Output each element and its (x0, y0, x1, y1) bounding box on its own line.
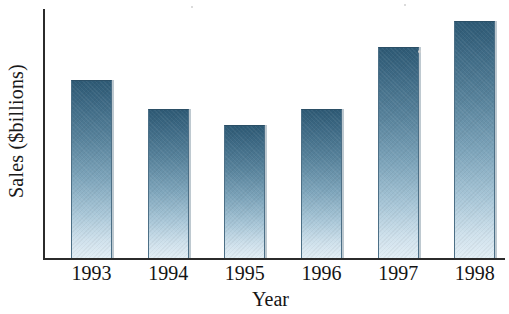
y-axis-title-text: Sales ($billions) (5, 64, 28, 198)
x-tick-label-1993: 1993 (52, 262, 132, 285)
bar-shadow (419, 47, 421, 258)
x-axis-title: Year (0, 288, 509, 311)
x-tick-label-1994: 1994 (128, 262, 208, 285)
bar-1993 (71, 80, 112, 258)
x-tick-label-1997: 1997 (358, 262, 438, 285)
x-axis-line (43, 258, 505, 260)
scan-speck (404, 4, 406, 6)
x-tick-label-1996: 1996 (282, 262, 362, 285)
x-axis-title-text: Year (252, 288, 289, 310)
bar-chart: Sales ($billions) 1993199419951996199719… (0, 0, 509, 314)
bar-shadow (495, 21, 497, 258)
x-tick-label-1995: 1995 (205, 262, 285, 285)
bar-shadow (265, 125, 267, 258)
plot-area (45, 9, 505, 258)
bar-1998 (454, 21, 495, 258)
scan-speck (418, 50, 421, 53)
scan-speck (191, 6, 193, 8)
bar-shadow (112, 80, 114, 258)
bar-1994 (148, 109, 189, 258)
bar-1997 (378, 47, 419, 258)
bar-1995 (224, 125, 265, 258)
bar-shadow (342, 109, 344, 258)
bar-shadow (189, 109, 191, 258)
x-tick-label-1998: 1998 (435, 262, 509, 285)
y-axis-title: Sales ($billions) (0, 0, 32, 262)
bar-1996 (301, 109, 342, 258)
